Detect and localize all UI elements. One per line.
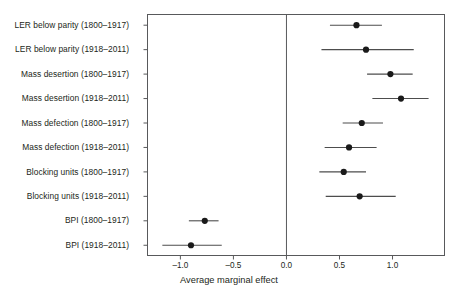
estimate-marker [353,22,359,28]
estimate-marker [188,242,194,248]
x-axis-tick-label: 0.0 [281,262,292,270]
x-axis-tick-label: 1.0 [387,262,398,270]
estimate-marker [359,120,365,126]
estimate-marker [387,71,393,77]
forest-plot-figure: LER below parity (1800–1917)LER below pa… [0,0,458,301]
plot-frame [148,15,445,256]
x-axis-tick-label: –0.5 [225,262,241,270]
estimate-marker [346,144,352,150]
x-axis-tick-label: 0.5 [334,262,345,270]
estimate-marker [202,218,208,224]
estimate-marker [363,47,369,53]
estimate-marker [398,95,404,101]
estimate-marker [357,193,363,199]
plot-area [0,0,458,301]
estimate-marker [341,169,347,175]
x-axis-tick-label: –1.0 [172,262,188,270]
x-axis-title: Average marginal effect [0,275,458,285]
